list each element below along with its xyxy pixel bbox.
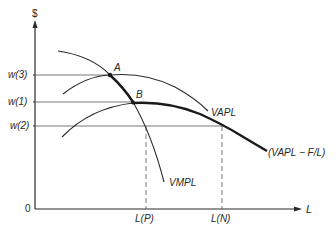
wage-label-w2: w(2) <box>10 121 29 131</box>
wage-label-w3: w(3) <box>8 70 27 80</box>
vapl-minus-fl-curve-thin <box>62 103 133 137</box>
point-a-label: A <box>114 63 121 73</box>
x-axis-label: L <box>306 204 312 215</box>
y-axis-arrow-icon <box>33 20 38 28</box>
curve-label-vapl: VAPL <box>211 108 236 118</box>
point-a-marker <box>108 73 112 77</box>
point-b-label: B <box>136 90 143 100</box>
x-marker-ln: L(N) <box>211 214 230 224</box>
curve-label-vmpl: VMPL <box>169 178 196 188</box>
curve-label-vapl-minus-fl: (VAPL − F/L) <box>268 148 325 158</box>
vmpl-curve <box>58 51 164 182</box>
vmpl-thick-segment <box>110 75 133 102</box>
point-b-marker <box>131 101 135 105</box>
x-marker-lp: L(P) <box>135 214 154 224</box>
wage-label-w1: w(1) <box>8 97 27 107</box>
labor-demand-diagram <box>0 0 336 234</box>
origin-label: 0 <box>25 204 31 214</box>
vapl-minus-fl-curve-thick <box>133 103 267 151</box>
y-axis-label: $ <box>32 9 38 19</box>
x-axis-arrow-icon <box>294 207 302 212</box>
